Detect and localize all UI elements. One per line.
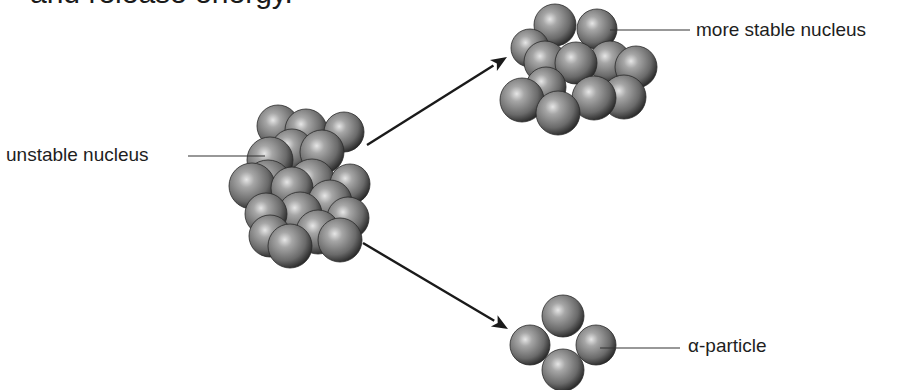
label-unstable-nucleus: unstable nucleus [6,144,149,166]
nucleon-sphere [510,325,550,365]
nucleon-sphere [542,349,584,390]
nucleon-sphere [542,295,584,337]
alpha-particle-cluster [510,295,616,390]
nucleon-sphere [576,325,616,365]
nucleon-sphere [268,224,312,268]
label-alpha-particle: α-particle [688,335,767,357]
unstable-nucleus-cluster [229,105,370,268]
label-more-stable-nucleus: more stable nucleus [696,19,866,41]
arrowhead-icon [490,57,507,71]
arrowhead-icon [491,315,508,329]
arrow-to-stable-nucleus [367,66,493,145]
nucleon-sphere [536,91,580,135]
decay-arrows [363,57,508,329]
nuclear-decay-diagram [0,0,906,390]
nucleon-sphere [318,218,362,262]
stable-nucleus-cluster [500,4,657,135]
arrow-to-alpha-particle [363,243,494,321]
